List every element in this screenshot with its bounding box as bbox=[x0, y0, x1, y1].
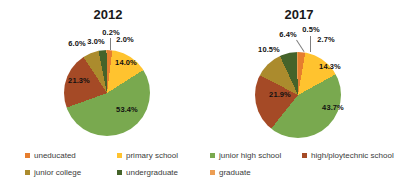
legend-label: junior college bbox=[34, 168, 81, 177]
legend-marker-junior-college bbox=[25, 170, 30, 175]
legend-marker-graduate bbox=[210, 170, 215, 175]
slice-label-2012-junior-college: 6.0% bbox=[68, 39, 86, 48]
slice-label-2012-uneducated: 2.0% bbox=[116, 35, 134, 44]
slice-label-2017-junior-high: 43.7% bbox=[322, 103, 344, 112]
chart-title-2012: 2012 bbox=[94, 7, 123, 22]
legend-label: high/ploytechnic school bbox=[311, 151, 394, 160]
slice-label-2017-high-ploytechnic: 21.9% bbox=[269, 90, 291, 99]
legend-item-junior-high-school: junior high school bbox=[210, 150, 281, 160]
slice-label-2017-primary-school: 14.3% bbox=[319, 62, 341, 71]
legend-marker-undergraduate bbox=[117, 170, 122, 175]
slice-label-2017-graduate: 0.5% bbox=[302, 25, 320, 34]
dual-pie-chart-figure: 2012 0.2% 3.0% 2.0% 6.0% 14.0% 21.3% 53.… bbox=[0, 0, 402, 189]
slice-label-2017-uneducated: 2.7% bbox=[317, 35, 335, 44]
legend-item-undergraduate: undergraduate bbox=[117, 167, 178, 177]
slice-label-2012-junior-high: 53.4% bbox=[116, 105, 138, 114]
leader-line-2017-graduate bbox=[310, 36, 311, 52]
legend-marker-high-ploytechnic-school bbox=[302, 153, 307, 158]
legend-item-primary-school: primary school bbox=[117, 150, 178, 160]
legend-marker-primary-school bbox=[117, 153, 122, 158]
legend-item-junior-college: junior college bbox=[25, 167, 81, 177]
slice-label-2012-primary-school: 14.0% bbox=[115, 58, 137, 67]
slice-label-2012-high-ploytechnic: 21.3% bbox=[68, 76, 90, 85]
slice-label-2012-undergraduate: 3.0% bbox=[87, 37, 105, 46]
legend-label: undergraduate bbox=[126, 168, 178, 177]
leader-line-2012-graduate bbox=[110, 38, 111, 50]
leader-line-2017-undergraduate bbox=[296, 40, 304, 52]
legend-item-uneducated: uneducated bbox=[25, 150, 76, 160]
legend-item-high-ploytechnic-school: high/ploytechnic school bbox=[302, 150, 394, 160]
chart-title-2017: 2017 bbox=[285, 7, 314, 22]
legend-item-graduate: graduate bbox=[210, 167, 251, 177]
legend-label: uneducated bbox=[34, 151, 76, 160]
legend-marker-uneducated bbox=[25, 153, 30, 158]
slice-label-2017-junior-college: 10.5% bbox=[258, 45, 280, 54]
legend-marker-junior-high-school bbox=[210, 153, 215, 158]
legend-label: graduate bbox=[219, 168, 251, 177]
legend-label: primary school bbox=[126, 151, 178, 160]
slice-label-2017-undergraduate: 6.4% bbox=[279, 30, 297, 39]
legend-label: junior high school bbox=[219, 151, 281, 160]
